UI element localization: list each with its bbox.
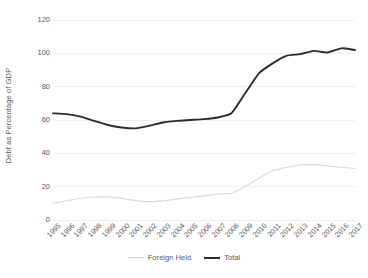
y-tick-label: 100	[4, 49, 50, 57]
y-tick-label: 120	[4, 16, 50, 24]
series-lines	[53, 48, 355, 203]
legend-item[interactable]: Foreign Held	[128, 253, 191, 262]
plot-area	[53, 20, 355, 220]
y-tick-label: 0	[4, 216, 50, 224]
y-tick-label: 80	[4, 83, 50, 91]
legend-label: Total	[224, 253, 240, 262]
y-tick-label: 20	[4, 183, 50, 191]
legend-swatch-icon	[128, 257, 144, 258]
series-line-total	[53, 48, 355, 128]
y-tick-label: 40	[4, 149, 50, 157]
x-tick-label: 2017	[348, 222, 365, 239]
series-line-foreign-held	[53, 165, 355, 204]
y-tick-label: 60	[4, 116, 50, 124]
legend-item[interactable]: Total	[204, 253, 240, 262]
chart-legend: Foreign HeldTotal	[0, 253, 368, 262]
plot-svg	[53, 20, 355, 220]
legend-swatch-icon	[204, 257, 220, 259]
y-axis-tick-labels: 020406080100120	[0, 0, 50, 240]
legend-label: Foreign Held	[148, 253, 191, 262]
line-chart: Debt as Percentage of GDP 02040608010012…	[0, 0, 368, 278]
